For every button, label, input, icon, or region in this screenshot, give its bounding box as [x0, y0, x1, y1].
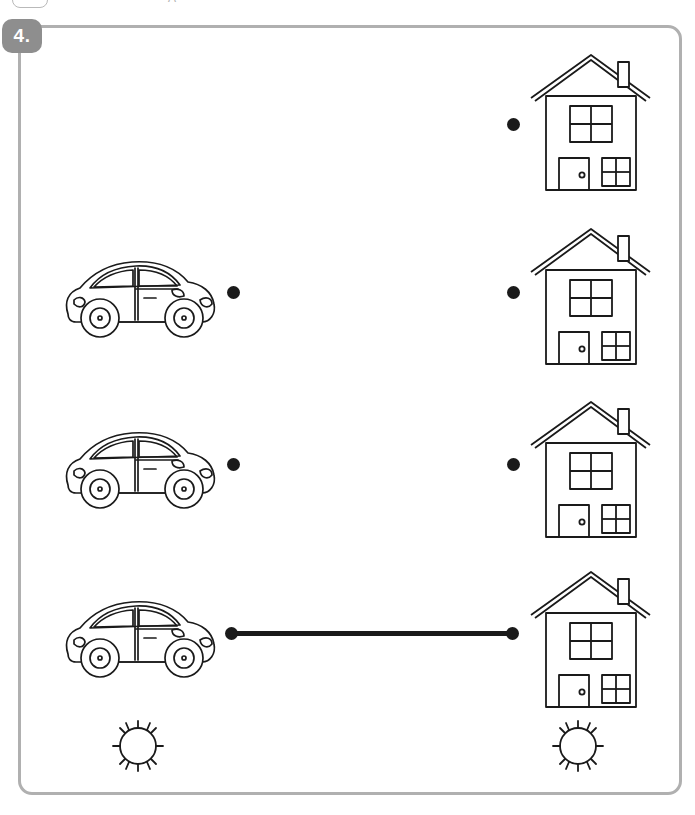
connector-dot-left-row-2[interactable]: [227, 286, 240, 299]
house-icon[interactable]: [528, 565, 653, 710]
connector-dot-right-row-4[interactable]: [506, 627, 519, 640]
sun-icon[interactable]: [545, 713, 611, 779]
worksheet-page: A 4.: [0, 0, 695, 815]
connector-dot-left-row-4[interactable]: [225, 627, 238, 640]
cutoff-pill-icon: [12, 0, 48, 8]
connector-dot-right-row-2[interactable]: [507, 286, 520, 299]
house-icon[interactable]: [528, 222, 653, 367]
car-icon[interactable]: [60, 592, 220, 682]
sun-icon[interactable]: [105, 713, 171, 779]
connector-dot-left-row-3[interactable]: [227, 458, 240, 471]
exercise-number-badge: 4.: [2, 19, 42, 53]
car-icon[interactable]: [60, 423, 220, 513]
cutoff-glyph: A: [168, 0, 176, 5]
top-cutoff-artifact: A: [0, 0, 695, 11]
connector-dot-right-row-1[interactable]: [507, 118, 520, 131]
car-icon[interactable]: [60, 252, 220, 342]
house-icon[interactable]: [528, 395, 653, 540]
connector-dot-right-row-3[interactable]: [507, 458, 520, 471]
connection-line-row-4[interactable]: [233, 631, 514, 636]
house-icon[interactable]: [528, 48, 653, 193]
